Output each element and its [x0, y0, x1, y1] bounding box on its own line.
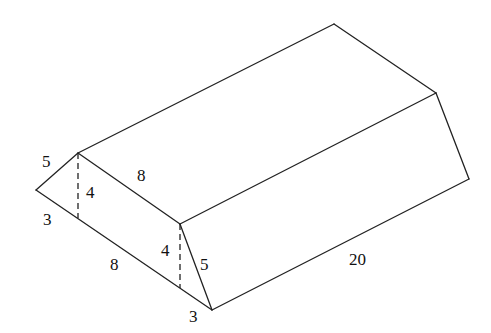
edge-back-top — [334, 24, 436, 93]
edge-back-slant — [436, 93, 469, 179]
edge-top-back — [78, 24, 334, 153]
label-front-height: 4 — [161, 241, 170, 260]
edge-ridge — [180, 93, 436, 224]
label-left-base: 3 — [43, 210, 52, 229]
label-length: 20 — [349, 250, 366, 269]
prism-diagram: 5 4 3 8 8 4 5 3 20 — [0, 0, 491, 333]
edge-bottom-back — [212, 179, 469, 310]
label-left-slant: 5 — [42, 152, 51, 171]
edge-bottom-front — [36, 190, 212, 310]
label-bottom-face: 8 — [110, 255, 119, 274]
label-front-slant: 5 — [200, 255, 209, 274]
label-top-face: 8 — [137, 166, 146, 185]
label-front-base: 3 — [189, 307, 198, 326]
label-left-height: 4 — [86, 183, 95, 202]
